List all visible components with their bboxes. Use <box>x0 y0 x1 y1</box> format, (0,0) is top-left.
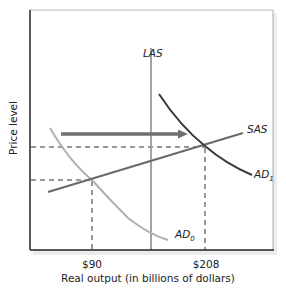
x-tick-208: $208 <box>193 258 220 270</box>
sas-label: SAS <box>247 123 268 135</box>
y-axis-label: Price level <box>7 101 19 155</box>
ad-as-diagram: LAS SAS AD1 AD0 $90 $208 Real output (in… <box>0 0 286 288</box>
x-tick-90: $90 <box>82 258 102 270</box>
x-axis-label: Real output (in billions of dollars) <box>61 272 235 284</box>
las-label: LAS <box>143 47 163 59</box>
